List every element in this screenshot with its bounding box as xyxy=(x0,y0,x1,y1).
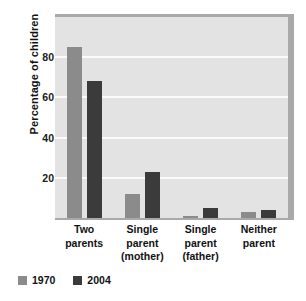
category-label-single-parent-mother: Single parent (mother) xyxy=(113,223,171,264)
y-tick-label-80: 80 xyxy=(28,51,54,63)
bars-layer xyxy=(55,17,288,218)
plot-area xyxy=(55,17,288,218)
bar-1970 xyxy=(125,194,140,218)
legend-item-1970: 1970 xyxy=(18,274,55,286)
bar-2004 xyxy=(145,172,160,218)
bar-chart-figure: Percentage of children 80 60 40 20 Two p… xyxy=(0,0,306,301)
x-axis-category-labels: Two parents Single parent (mother) Singl… xyxy=(55,223,294,271)
bar-group xyxy=(125,17,160,218)
bar-1970 xyxy=(67,47,82,218)
y-tick-label-40: 40 xyxy=(28,132,54,144)
category-line: (father) xyxy=(172,250,230,264)
legend-item-2004: 2004 xyxy=(73,274,110,286)
category-line: parent xyxy=(113,237,171,251)
legend-label-1970: 1970 xyxy=(32,274,55,286)
y-axis-tick-labels: 80 60 40 20 xyxy=(28,14,54,220)
bar-1970 xyxy=(183,216,198,218)
bar-2004 xyxy=(203,208,218,218)
category-line: parent xyxy=(172,237,230,251)
legend-label-2004: 2004 xyxy=(87,274,110,286)
chart-legend: 1970 2004 xyxy=(18,274,111,286)
category-line: (mother) xyxy=(113,250,171,264)
bar-2004 xyxy=(261,210,276,218)
category-label-two-parents: Two parents xyxy=(55,223,113,250)
bar-1970 xyxy=(241,212,256,218)
bar-group xyxy=(67,17,102,218)
category-line: Neither xyxy=(230,223,288,237)
category-line: Two xyxy=(55,223,113,237)
category-line: parents xyxy=(55,237,113,251)
category-line: parent xyxy=(230,237,288,251)
y-tick-label-20: 20 xyxy=(28,172,54,184)
category-label-single-parent-father: Single parent (father) xyxy=(172,223,230,264)
bar-2004 xyxy=(87,81,102,218)
category-label-neither-parent: Neither parent xyxy=(230,223,288,250)
y-tick-label-60: 60 xyxy=(28,91,54,103)
category-line: Single xyxy=(113,223,171,237)
bar-group xyxy=(241,17,276,218)
bar-group xyxy=(183,17,218,218)
category-line: Single xyxy=(172,223,230,237)
legend-swatch-1970 xyxy=(18,276,27,285)
legend-swatch-2004 xyxy=(73,276,82,285)
